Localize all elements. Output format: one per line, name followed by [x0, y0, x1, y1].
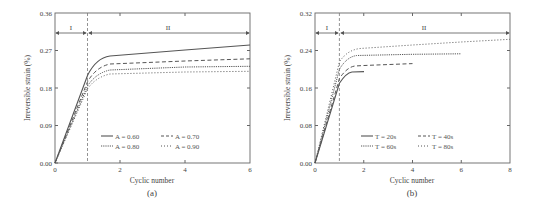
chart-a: 0.00 0.09 0.18 0.27 0.36 Irreversible st… — [23, 10, 252, 199]
chart-a-plot-frame — [55, 13, 250, 163]
region-label: II — [166, 24, 171, 32]
x-tick: 8 — [508, 166, 512, 174]
caption: (b) — [407, 188, 418, 198]
chart-b: 0.00 0.08 0.16 0.24 0.32 Irreversible st… — [283, 10, 512, 199]
chart-b-series — [315, 39, 510, 163]
series-t40 — [315, 64, 413, 163]
y-tick: 0.00 — [300, 160, 313, 168]
y-tick: 0.27 — [40, 47, 53, 55]
series-t80 — [315, 39, 510, 163]
legend-entry: A = 0.60 — [115, 133, 140, 141]
y-tick: 0.24 — [300, 47, 313, 55]
caption: (a) — [147, 188, 157, 198]
legend-entry: T = 40s — [432, 133, 454, 141]
figure: 0.00 0.09 0.18 0.27 0.36 Irreversible st… — [0, 0, 539, 212]
y-tick: 0.00 — [40, 160, 53, 168]
y-tick: 0.16 — [300, 85, 313, 93]
y-tick: 0.18 — [40, 85, 53, 93]
chart-b-plot-frame — [315, 13, 510, 163]
y-axis-label: Irreversible strain (%) — [283, 54, 292, 121]
y-tick: 0.32 — [300, 10, 313, 18]
series-a070 — [55, 59, 250, 163]
x-tick: 0 — [53, 166, 57, 174]
x-tick: 6 — [248, 166, 252, 174]
region-label: II — [422, 24, 427, 32]
region-label: I — [70, 24, 73, 32]
chart-a-legend: A = 0.60 A = 0.70 A = 0.80 A = 0.90 — [101, 133, 200, 151]
legend-entry: T = 20s — [375, 133, 397, 141]
legend-entry: A = 0.90 — [175, 143, 200, 151]
chart-a-x-axis: 0 2 4 6 Cyclic number (a) — [53, 13, 252, 198]
legend-entry: A = 0.80 — [115, 143, 140, 151]
legend-entry: T = 80s — [432, 143, 454, 151]
legend-entry: T = 60s — [375, 143, 397, 151]
x-tick: 2 — [362, 166, 366, 174]
y-tick: 0.09 — [40, 122, 53, 130]
legend-entry: A = 0.70 — [175, 133, 200, 141]
x-tick: 0 — [313, 166, 317, 174]
region-label: I — [326, 24, 329, 32]
x-axis-label: Cyclic number — [130, 176, 175, 185]
y-tick: 0.08 — [300, 122, 313, 130]
series-a080 — [55, 66, 250, 163]
chart-a-series — [55, 45, 250, 163]
y-tick: 0.36 — [40, 10, 53, 18]
x-tick: 2 — [118, 166, 122, 174]
chart-b-regions: I II — [316, 13, 509, 163]
y-axis-label: Irreversible strain (%) — [23, 54, 32, 121]
chart-b-legend: T = 20s T = 40s T = 60s T = 80s — [361, 133, 454, 151]
x-tick: 6 — [460, 166, 464, 174]
x-tick: 4 — [411, 166, 415, 174]
x-tick: 4 — [183, 166, 187, 174]
x-axis-label: Cyclic number — [390, 176, 435, 185]
